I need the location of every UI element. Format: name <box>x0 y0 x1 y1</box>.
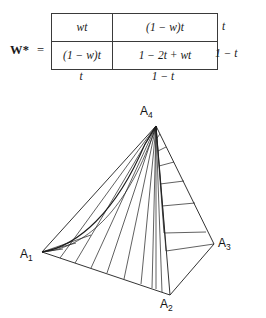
matrix-name-label: W* <box>10 43 29 58</box>
matrix-row: (1 − w)t 1 − 2t + wt <box>52 42 218 70</box>
ruling-right-2 <box>158 147 166 151</box>
matrix-col-label-1: t <box>51 70 111 82</box>
matrix-cell-r2c2: 1 − 2t + wt <box>113 42 218 70</box>
crease-1 <box>156 126 162 292</box>
fan-line-1 <box>60 126 156 258</box>
edge-a1-a2 <box>42 252 170 295</box>
tetrahedron-figure: A4 A1 A3 A2 <box>0 96 266 318</box>
vertex-label-a4: A4 <box>140 104 153 120</box>
vertex-label-a2: A2 <box>160 297 173 313</box>
matrix-row-label-2: 1 − t <box>215 40 237 67</box>
ruling-right-3 <box>159 162 174 166</box>
generator-right-2 <box>156 126 164 233</box>
ruling-right-5 <box>162 203 195 206</box>
matrix-cell-r1c2: (1 − w)t <box>113 14 218 42</box>
ruling-right-1 <box>157 134 160 138</box>
right-face-rulings <box>157 134 214 251</box>
tetrahedron-diagram <box>0 96 266 318</box>
ruling-right-7 <box>166 244 214 251</box>
vertex-label-a3: A3 <box>218 236 231 252</box>
matrix-row: wt (1 − w)t <box>52 14 218 42</box>
matrix-row-label-1: t <box>222 13 225 40</box>
matrix-col-label-2: 1 − t <box>111 70 215 82</box>
edge-a4-a1 <box>42 126 156 252</box>
matrix-cell-r1c1: wt <box>52 14 113 42</box>
ruling-right-6 <box>164 232 206 233</box>
ruling-right-4 <box>160 181 184 184</box>
fan-line-5 <box>124 126 156 279</box>
vertex-label-a1: A1 <box>20 247 33 263</box>
figure-page: W* = wt (1 − w)t (1 − w)t 1 − 2t + wt t … <box>0 0 266 318</box>
matrix-figure: W* = wt (1 − w)t (1 − w)t 1 − 2t + wt t … <box>0 10 266 98</box>
matrix-cell-r2c1: (1 − w)t <box>52 42 113 70</box>
equals-sign: = <box>37 43 44 58</box>
edge-a2-a3 <box>170 244 214 295</box>
transition-matrix: wt (1 − w)t (1 − w)t 1 − 2t + wt <box>51 13 218 70</box>
fan-line-3 <box>91 126 156 268</box>
right-face-generators <box>156 126 166 251</box>
